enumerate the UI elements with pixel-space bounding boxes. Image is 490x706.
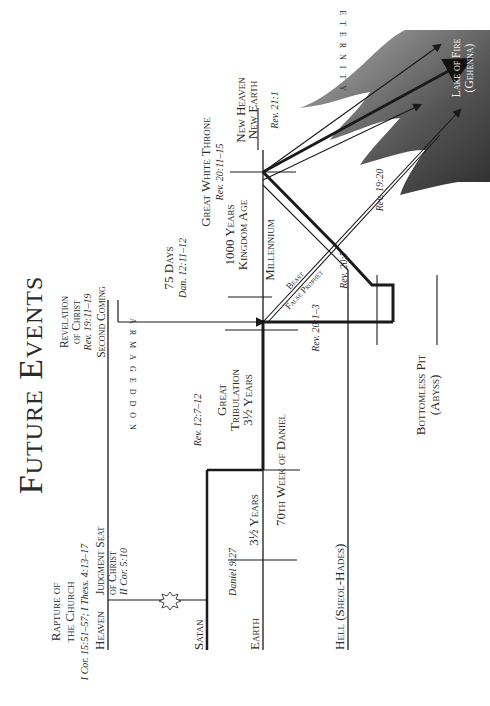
rapture-ref: I Cor. 15:51–57; I Thess. 4:13–17: [79, 543, 90, 681]
bottomless-pit-label-2: (Abyss): [427, 375, 442, 416]
days75-label: 75 Days: [161, 247, 176, 290]
millennium-label: Millennium: [262, 219, 277, 281]
ref-rev-1920: Rev. 19:20: [374, 169, 385, 213]
realm-heaven: Heaven: [92, 611, 107, 650]
ref-rev-207: Rev. 20:7: [338, 250, 349, 290]
eternity-label: ETERNITY: [338, 10, 347, 97]
lake-of-fire-label-1: Lake of Fire: [450, 39, 462, 98]
realm-hell: Hell (Sheol-Hades): [332, 544, 347, 650]
realm-satan: Satan: [191, 619, 206, 650]
revelation-label-2: of Christ: [70, 300, 82, 344]
kingdom-label-2: Kingdom Age: [235, 199, 250, 270]
judgment-seat-ref: II Cor. 5:10: [118, 548, 129, 596]
great-white-throne-ref: Rev. 20:11–15: [214, 144, 225, 202]
ref-daniel-927: Daniel 9:27: [227, 547, 238, 597]
great-white-throne-label: Great White Throne: [198, 117, 213, 227]
first-half-label: 3½ Years: [246, 494, 261, 545]
realm-earth: Earth: [247, 618, 262, 650]
bottomless-pit-label-1: Bottomless Pit: [413, 354, 428, 435]
page-title: Future Events: [12, 276, 49, 495]
days75-ref: Dan. 12:11–12: [177, 238, 188, 299]
revelation-label-1: Revelation: [58, 296, 70, 348]
rapture-label-2: the Church: [62, 581, 77, 642]
great-tribulation-label-3: 3½ Years: [240, 374, 255, 425]
armageddon-label: ARMAGEDDON: [128, 318, 137, 436]
new-earth-label: New Earth: [245, 80, 260, 139]
rapture-label-1: Rapture of: [48, 583, 63, 641]
revelation-ref: Rev. 19:11–19: [82, 294, 93, 352]
beast-arrow: [263, 110, 460, 322]
seventieth-week-label: 70th Week of Daniel: [273, 414, 288, 526]
lake-of-fire-label-2: (Gehenna): [463, 43, 476, 92]
second-coming-label: Second Coming: [95, 286, 107, 358]
meeting-in-air-icon: [159, 592, 181, 610]
ref-rev-127: Rev. 12:7–12: [192, 394, 203, 448]
new-heaven-ref: Rev. 21:1: [269, 91, 280, 130]
judgment-seat-label-2: of Christ: [106, 551, 118, 595]
future-events-diagram: Future Events Heaven Satan Earth Hell (S: [0, 0, 490, 706]
judgment-seat-label-1: Judgment Seat: [94, 526, 106, 595]
ref-rev-2013: Rev. 20:1–3: [310, 304, 321, 353]
